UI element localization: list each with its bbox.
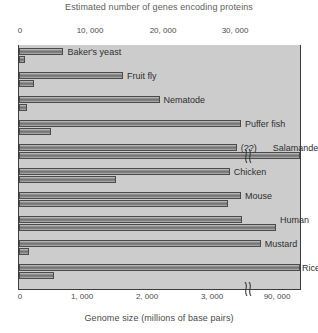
bottom-axis-tick-label: 1, 000 <box>71 292 93 301</box>
top-axis-tick-label: 30, 000 <box>222 26 249 35</box>
bottom-axis-tick-label: 3, 000 <box>201 292 223 301</box>
organism-label: Nematode <box>164 95 206 105</box>
chart-row: Chicken <box>19 168 300 192</box>
organism-label: Fruit fly <box>127 71 157 81</box>
genome-size-bar <box>19 224 276 231</box>
organism-label: Salamander <box>273 143 318 153</box>
chart-row: Rice <box>19 264 300 288</box>
chart-row: Mustard <box>19 240 300 264</box>
bottom-axis-tick-label: 2, 000 <box>136 292 158 301</box>
genome-size-bar <box>19 272 54 279</box>
gene-count-bar <box>19 240 261 247</box>
chart-row: Nematode <box>19 96 300 120</box>
genome-size-bar <box>19 176 116 183</box>
gene-count-bar <box>19 144 237 151</box>
organism-label: Rice <box>302 263 318 273</box>
gene-count-bar <box>19 48 63 55</box>
organism-label: Puffer fish <box>245 119 285 129</box>
top-axis-tick-label: 10, 000 <box>77 26 104 35</box>
chart-row: (??)Salamander <box>19 144 300 168</box>
plot-area: Baker's yeastFruit flyNematodePuffer fis… <box>18 45 301 289</box>
organism-label: Baker's yeast <box>67 47 121 57</box>
gene-count-bar <box>19 120 241 127</box>
organism-label: Mustard <box>265 239 298 249</box>
top-axis-tick-label: 0 <box>18 26 22 35</box>
gene-genome-chart: Estimated number of genes encoding prote… <box>0 0 318 333</box>
gene-count-bar <box>19 216 242 223</box>
gene-count-bar <box>19 72 123 79</box>
gene-count-bar <box>19 264 300 271</box>
chart-row: Human <box>19 216 300 240</box>
bottom-axis-tick-label: 0 <box>18 292 22 301</box>
chart-row: Puffer fish <box>19 120 300 144</box>
chart-row: Fruit fly <box>19 72 300 96</box>
unknown-value-annotation: (??) <box>241 143 257 153</box>
genome-size-bar <box>19 152 300 159</box>
chart-row: Baker's yeast <box>19 48 300 72</box>
chart-row: Mouse <box>19 192 300 216</box>
bottom-axis-tick-label: 90, 000 <box>264 292 291 301</box>
gene-count-bar <box>19 192 241 199</box>
gene-count-bar <box>19 96 160 103</box>
top-axis-tick-label: 20, 000 <box>150 26 177 35</box>
organism-label: Mouse <box>245 191 272 201</box>
gene-count-bar <box>19 168 230 175</box>
top-axis-title: Estimated number of genes encoding prote… <box>0 2 318 12</box>
bottom-axis-title: Genome size (millions of base pairs) <box>0 313 318 323</box>
genome-size-bar <box>19 200 228 207</box>
organism-label: Chicken <box>234 167 267 177</box>
genome-size-bar <box>19 56 25 63</box>
genome-size-bar <box>19 80 34 87</box>
organism-label: Human <box>280 215 309 225</box>
genome-size-bar <box>19 248 29 255</box>
genome-size-bar <box>19 128 51 135</box>
bottom-axis-line <box>18 289 301 290</box>
genome-size-bar <box>19 104 27 111</box>
